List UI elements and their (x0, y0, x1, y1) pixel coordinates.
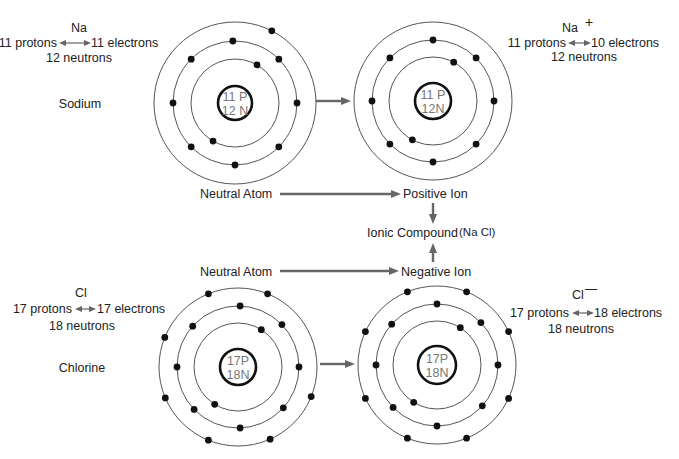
electron-dot (404, 435, 411, 442)
chloride-ion-model: 17P18N (358, 286, 516, 444)
nucleus-protons: 11 P (421, 88, 446, 102)
sodium-ion-model: 11 P12N (354, 22, 512, 180)
ionic-compound-label: Ionic Compound (367, 226, 458, 240)
electron-dot (188, 143, 195, 150)
electron-dot (161, 334, 168, 341)
positive-to-compound-arrow-icon (429, 203, 437, 224)
clminus-neutrons: 18 neutrons (548, 322, 614, 336)
sodium-label: Sodium (59, 97, 101, 111)
electron-dot (410, 399, 417, 406)
electron-dot (174, 364, 181, 371)
clminus-symbol: Cl (572, 288, 584, 302)
double-arrow-icon (572, 310, 594, 316)
nucleus-protons: 17P (227, 354, 249, 368)
electron-dot (258, 326, 265, 333)
negative-ion-label: Negative Ion (401, 265, 471, 279)
electron-dot (491, 98, 498, 105)
electron-dot (296, 364, 303, 371)
neutral-to-positive-arrow-icon (280, 190, 401, 198)
na-symbol: Na (71, 21, 87, 35)
electron-dot (232, 162, 239, 169)
double-arrow-icon (75, 306, 96, 312)
electron-dot (390, 404, 397, 411)
electron-dot (479, 402, 486, 409)
electron-dot (434, 301, 441, 308)
electron-dot (229, 38, 236, 45)
electron-dot (275, 143, 282, 150)
chlorine-atom-model: 17P18N (159, 288, 317, 446)
electron-dot (473, 55, 480, 62)
electron-dot (404, 288, 411, 295)
electron-dot (434, 423, 441, 430)
nucleus-neutrons: 12 N (222, 104, 248, 118)
electron-dot (191, 406, 198, 413)
double-arrow-icon (59, 40, 91, 46)
electron-dot (280, 404, 287, 411)
electron-dot (430, 159, 437, 166)
nucleus-protons: 11 P (223, 90, 248, 104)
clminus-electrons: 18 electrons (594, 306, 662, 320)
electron-dot (473, 141, 480, 148)
electron-dot (495, 362, 502, 369)
electron-dot (387, 141, 394, 148)
electron-dot (362, 328, 369, 335)
double-arrow-icon (568, 40, 591, 46)
cl-electrons: 17 electrons (97, 302, 165, 316)
chlorine-label: Chlorine (59, 361, 106, 375)
sodium-atom-model: 11 P12 N (154, 22, 316, 184)
electron-dot (457, 324, 464, 331)
electron-dot (237, 303, 244, 310)
cl-symbol: Cl (75, 286, 87, 300)
na-electrons: 11 electrons (91, 36, 158, 50)
electron-dot (373, 362, 380, 369)
ionic-compound-formula: (Na Cl) (459, 226, 496, 238)
electron-dot (254, 62, 261, 69)
electron-dot (409, 136, 416, 143)
electron-dot (205, 437, 212, 444)
nucleus-neutrons: 18N (426, 366, 449, 380)
cl-protons: 17 protons (13, 302, 72, 316)
naplus-electrons: 10 electrons (591, 36, 659, 50)
top-neutral-atom-label: Neutral Atom (200, 187, 272, 201)
nucleus-neutrons: 12N (422, 102, 445, 116)
neutral-to-negative-arrow-icon (280, 267, 399, 275)
chlorine-ionization-arrow-icon (320, 360, 355, 368)
naplus-neutrons: 12 neutrons (551, 50, 617, 64)
electron-dot (369, 98, 376, 105)
electron-dot (430, 37, 437, 44)
electron-dot (264, 290, 271, 297)
electron-dot (162, 395, 169, 402)
cl-neutrons: 18 neutrons (49, 319, 115, 333)
naplus-protons: 11 protons (508, 36, 566, 50)
electron-dot (450, 59, 457, 66)
electron-dot (170, 100, 177, 107)
electron-dot (189, 323, 196, 330)
electron-dot (463, 435, 470, 442)
electron-dot (362, 395, 369, 402)
naplus-charge: + (585, 14, 593, 30)
electron-dot (267, 436, 274, 443)
electron-dot (505, 395, 512, 402)
clminus-charge: — (585, 282, 597, 296)
electron-dot (205, 290, 212, 297)
electron-dot (210, 138, 217, 145)
clminus-protons: 17 protons (510, 306, 569, 320)
electron-dot (275, 56, 282, 63)
sodium-ionization-arrow-icon (316, 97, 351, 105)
electron-dot (294, 100, 301, 107)
na-protons: 11 protons (0, 36, 57, 50)
nucleus-protons: 17P (426, 352, 448, 366)
na-neutrons: 12 neutrons (46, 51, 112, 65)
electron-dot (237, 425, 244, 432)
electron-dot (387, 55, 394, 62)
electron-dot (279, 321, 286, 328)
electron-dot (505, 328, 512, 335)
positive-ion-label: Positive Ion (403, 187, 468, 201)
negative-to-compound-arrow-icon (429, 243, 437, 262)
electron-dot (463, 288, 470, 295)
electron-dot (308, 393, 315, 400)
electron-dot (478, 319, 485, 326)
electron-dot (268, 27, 275, 34)
ionic-bonding-diagram: 11 P12 N 11 P12N 17P18N 17P18N Na 11 pro… (0, 0, 679, 459)
nucleus-neutrons: 18N (227, 368, 250, 382)
